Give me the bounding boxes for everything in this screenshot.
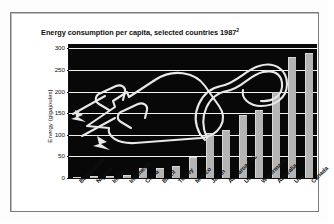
- y-axis-tick-label: 50: [45, 152, 65, 160]
- y-axis-tick-label: 250: [45, 66, 65, 74]
- y-axis-tick-label: 150: [45, 109, 65, 117]
- bar-cell: [69, 44, 86, 178]
- chart-frame: Energy consumption per capita, selected …: [10, 12, 319, 212]
- chart-title-footnote-marker: 2: [236, 27, 239, 33]
- bar: [305, 53, 313, 178]
- y-axis-tick-label: 300: [45, 44, 65, 52]
- y-axis-tick-label: 100: [45, 131, 65, 139]
- y-axis-title-wrapper: Energy (gigajoules): [33, 59, 43, 151]
- y-axis-tick-labels: 050100150200250300: [45, 44, 67, 178]
- y-axis-tick-label: 0: [45, 174, 65, 182]
- x-axis-tick-labels: BangladeshNigeriaIndiaIndonesiaChinaBraz…: [69, 180, 317, 224]
- chart-title-text: Energy consumption per capita, selected …: [41, 28, 236, 37]
- y-axis-tick-label: 200: [45, 88, 65, 96]
- chart-title: Energy consumption per capita, selected …: [41, 27, 311, 39]
